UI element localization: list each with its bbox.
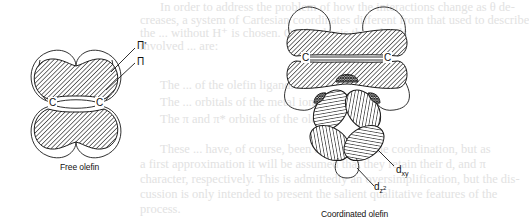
double-bond xyxy=(56,100,96,109)
coordinated-olefin-diagram xyxy=(285,7,410,186)
free-olefin-diagram xyxy=(31,48,135,158)
dz2-leader-line xyxy=(357,168,374,186)
carbon-atom-left: C xyxy=(48,97,57,108)
carbon-atom-right: C xyxy=(383,52,392,63)
dxy-label: dxy xyxy=(396,164,409,175)
pi-label: Π xyxy=(137,56,144,67)
free-olefin-caption: Free olefin xyxy=(60,162,99,172)
dxy-leader-line xyxy=(378,150,394,166)
pi-star-label: Π* xyxy=(137,40,147,51)
carbon-atom-right: C xyxy=(95,97,104,108)
coordinated-olefin-caption: Coordinated olefin xyxy=(321,209,388,219)
pi-star-leader-line xyxy=(111,48,135,72)
double-bond xyxy=(310,57,384,60)
carbon-atom-left: C xyxy=(301,52,310,63)
dz2-label: dz2 xyxy=(374,181,386,192)
